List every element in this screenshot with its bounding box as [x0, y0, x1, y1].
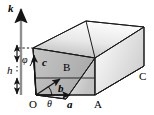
angle-theta-label: θ — [47, 99, 52, 109]
vertex-a-label: A — [94, 99, 102, 110]
k-axis-label: k — [8, 3, 14, 14]
vector-c-label: c — [42, 57, 47, 68]
angle-phi-label: φ — [22, 55, 28, 65]
height-label: h — [7, 65, 13, 76]
vertex-b-label: B — [63, 62, 70, 73]
origin-label: O — [29, 99, 37, 110]
parallelepiped-diagram: k h φ θ c b a O A B C — [0, 0, 154, 115]
vector-a-label: a — [67, 99, 73, 110]
vertex-c-label: C — [139, 71, 146, 82]
vector-b-label: b — [58, 83, 64, 94]
